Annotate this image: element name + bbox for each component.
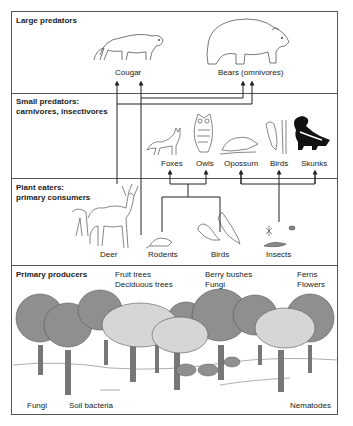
label-bears: Bears (omnivores) bbox=[218, 68, 283, 78]
label-nematodes: Nematodes bbox=[290, 401, 331, 411]
label-fungi-ground: Fungi bbox=[27, 401, 47, 411]
label-cougar: Cougar bbox=[115, 68, 141, 78]
opossum-icon bbox=[220, 137, 258, 154]
label-deer: Deer bbox=[100, 250, 117, 260]
label-skunks: Skunks bbox=[301, 159, 327, 169]
forest-icon bbox=[13, 289, 338, 395]
bear-icon bbox=[207, 19, 289, 64]
label-birds-plant: Birds bbox=[211, 250, 229, 260]
label-opossum: Opossum bbox=[224, 159, 258, 169]
cougar-icon bbox=[94, 34, 163, 60]
deer-icon bbox=[72, 184, 138, 248]
label-soil-bacteria: Soil bacteria bbox=[69, 401, 113, 411]
fox-icon bbox=[147, 128, 180, 155]
label-birds-small: Birds bbox=[270, 159, 288, 169]
woodpecker-icon bbox=[266, 120, 286, 154]
label-owls: Owls bbox=[196, 159, 214, 169]
label-producers-col3: Ferns Flowers bbox=[297, 270, 325, 289]
rodent-icon bbox=[146, 238, 172, 248]
bird-icon bbox=[198, 212, 240, 244]
skunk-icon bbox=[294, 116, 330, 150]
label-insects: Insects bbox=[266, 250, 291, 260]
insects-icon bbox=[264, 226, 295, 247]
label-foxes: Foxes bbox=[161, 159, 183, 169]
label-producers-col1: Fruit trees Deciduous trees bbox=[115, 270, 173, 289]
label-rodents: Rodents bbox=[148, 250, 178, 260]
illustration-layer bbox=[0, 0, 353, 426]
label-producers-col2: Berry bushes Fungi bbox=[205, 270, 252, 289]
owl-icon bbox=[194, 114, 212, 152]
